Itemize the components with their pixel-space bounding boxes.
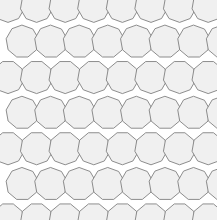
tile-polygon <box>121 168 153 200</box>
tile-polygon <box>6 96 38 128</box>
tile-polygon <box>106 133 138 165</box>
tile-polygon <box>35 25 67 57</box>
tile-polygon <box>135 133 167 165</box>
tile-polygon <box>49 133 81 165</box>
tile-polygon <box>35 96 67 128</box>
tile-polygon <box>63 168 95 200</box>
tile-polygon <box>163 133 195 165</box>
tile-polygon <box>35 168 67 200</box>
tiling-canvas <box>0 0 217 220</box>
tile-polygon <box>149 168 181 200</box>
tile-polygon <box>106 62 138 94</box>
tile-polygon <box>178 168 210 200</box>
tile-polygon <box>135 62 167 94</box>
tile-polygon <box>149 96 181 128</box>
tile-polygon <box>149 25 181 57</box>
tile-group <box>0 0 217 220</box>
tile-polygon <box>49 62 81 94</box>
tile-polygon <box>63 96 95 128</box>
tile-polygon <box>20 133 52 165</box>
tile-polygon <box>92 168 124 200</box>
tile-polygon <box>6 168 38 200</box>
tile-polygon <box>78 62 110 94</box>
tile-polygon <box>178 25 210 57</box>
tile-polygon <box>63 25 95 57</box>
tile-polygon <box>178 96 210 128</box>
tile-polygon <box>121 96 153 128</box>
tile-polygon <box>20 62 52 94</box>
tile-polygon <box>78 133 110 165</box>
tile-polygon <box>6 25 38 57</box>
tile-polygon <box>163 62 195 94</box>
tile-polygon <box>92 25 124 57</box>
polygon-tiling-figure <box>0 0 217 220</box>
tile-polygon <box>121 25 153 57</box>
tile-polygon <box>92 96 124 128</box>
